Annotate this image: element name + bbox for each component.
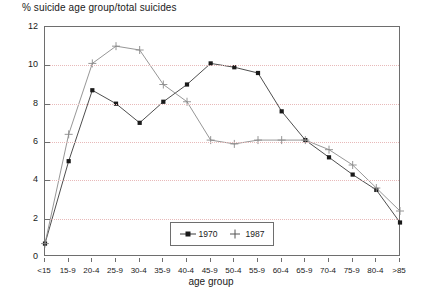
gridline [45,104,399,105]
gridline [45,180,399,181]
chart-title: % suicide age group/total suicides [22,2,177,13]
x-tick-label: 35-9 [154,266,170,275]
data-point-1987 [65,130,73,138]
square-marker-icon [180,229,196,239]
x-tick-mark [399,258,400,262]
x-tick-label: 40-4 [178,266,194,275]
data-point-1970 [351,172,355,176]
x-tick-label: <15 [37,266,51,275]
data-point-1970 [256,71,260,75]
x-tick-mark [210,258,211,262]
legend-item-1987: 1987 [227,229,265,239]
x-tick-mark [91,258,92,262]
suicide-age-group-line-chart: % suicide age group/total suicides 02468… [0,0,422,297]
data-point-1970 [90,88,94,92]
y-axis: 024681012 [16,0,38,297]
data-point-1987 [325,146,333,154]
data-point-1970 [327,155,331,159]
x-tick-mark [352,258,353,262]
data-point-1987 [136,46,144,54]
x-tick-label: 55-9 [249,266,265,275]
y-tick-mark [45,65,50,66]
x-tick-mark [233,258,234,262]
x-tick-mark [375,258,376,262]
data-point-1970 [185,82,189,86]
x-tick-mark [304,258,305,262]
data-point-1970 [398,220,402,224]
data-point-1970 [67,159,71,163]
x-tick-mark [68,258,69,262]
x-tick-label: 15-9 [60,266,76,275]
y-tick-mark [45,180,50,181]
series-line-1970 [45,63,400,243]
x-tick-mark [186,258,187,262]
legend-label-1987: 1987 [246,229,265,239]
plus-marker-icon [227,229,243,239]
data-point-1987 [41,240,49,248]
x-tick-mark [139,258,140,262]
y-tick-label: 4 [18,174,38,184]
x-tick-label: 45-9 [202,266,218,275]
x-tick-label: 30-4 [131,266,147,275]
y-tick-label: 8 [18,98,38,108]
y-tick-label: 6 [18,136,38,146]
data-point-1970 [138,121,142,125]
chart-legend: 1970 1987 [170,222,274,246]
y-tick-label: 2 [18,213,38,223]
x-tick-mark [115,258,116,262]
y-tick-label: 12 [18,21,38,31]
x-tick-label: 75-9 [344,266,360,275]
x-tick-mark [162,258,163,262]
legend-label-1970: 1970 [199,229,218,239]
x-tick-label: 25-9 [107,266,123,275]
x-tick-mark [281,258,282,262]
y-tick-mark [45,142,50,143]
x-tick-label: 20-4 [83,266,99,275]
data-point-1970 [280,109,284,113]
gridline [45,65,399,66]
gridline [45,219,399,220]
legend-item-1970: 1970 [180,229,218,239]
x-tick-label: 70-4 [320,266,336,275]
x-tick-label: 50-4 [225,266,241,275]
x-tick-label: 80-4 [367,266,383,275]
x-tick-label: >85 [392,266,406,275]
data-point-1987 [159,81,167,89]
x-tick-mark [328,258,329,262]
y-tick-label: 10 [18,59,38,69]
y-tick-mark [45,219,50,220]
series-line-1987 [45,46,400,243]
data-point-1987 [112,42,120,50]
x-tick-mark [257,258,258,262]
x-tick-label: 60-4 [273,266,289,275]
x-axis-title: age group [0,276,422,287]
x-tick-mark [44,258,45,262]
x-tick-label: 65-9 [296,266,312,275]
gridline [45,142,399,143]
y-tick-mark [45,104,50,105]
